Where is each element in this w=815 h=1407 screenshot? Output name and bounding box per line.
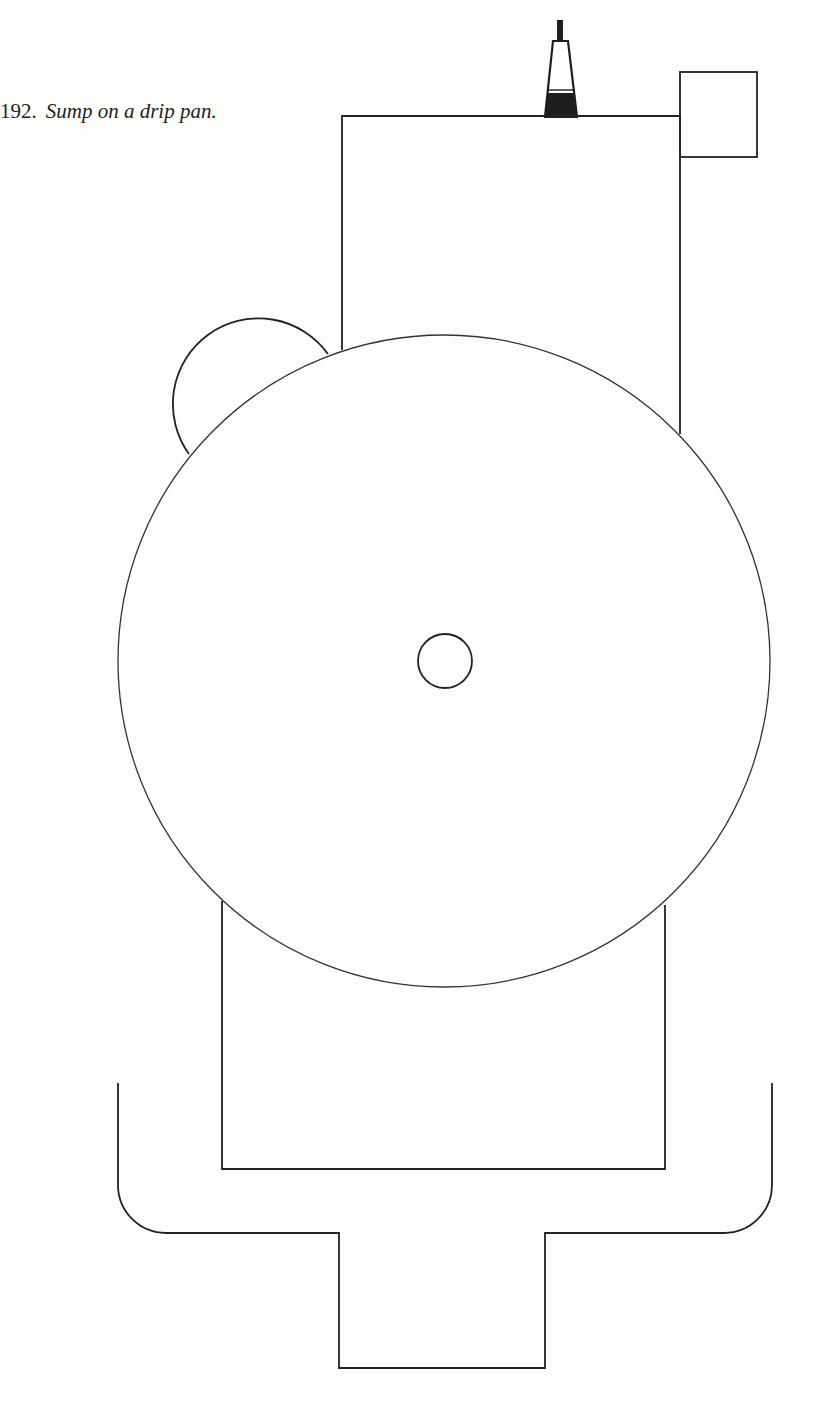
upper-housing (342, 116, 680, 434)
hub-circle (418, 634, 472, 688)
side-box (680, 72, 757, 157)
large-disc (118, 335, 770, 987)
small-side-circle (173, 318, 328, 454)
nozzle-icon (545, 20, 577, 117)
sump-diagram (0, 0, 815, 1407)
lower-housing (222, 901, 665, 1169)
drip-pan (118, 1083, 772, 1368)
